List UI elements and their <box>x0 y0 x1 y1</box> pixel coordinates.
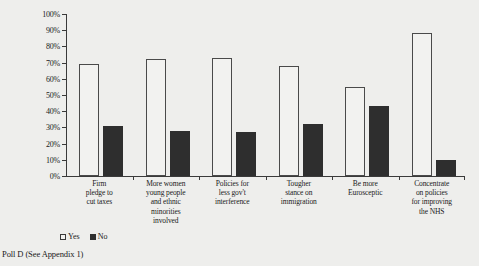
y-axis-tick-mark <box>62 176 66 177</box>
y-axis-tick-mark <box>62 79 66 80</box>
category-label-line: immigration <box>266 197 333 206</box>
y-axis-tick-mark <box>62 63 66 64</box>
category-label-line: minorities <box>133 207 200 216</box>
y-axis-tick-label: 80% <box>46 42 60 51</box>
bar-yes <box>79 64 99 176</box>
chart-legend: YesNo <box>60 232 107 241</box>
category-label-line: Be more <box>332 179 399 188</box>
legend-swatch-yes-icon <box>60 234 66 240</box>
y-axis-tick-label: 50% <box>46 91 60 100</box>
bar-group <box>345 14 389 176</box>
category-label-line: pledge to <box>66 188 133 197</box>
bar-no <box>303 124 323 176</box>
y-axis-tick-label: 30% <box>46 123 60 132</box>
category-label-line: More women <box>133 179 200 188</box>
y-axis-tick-label: 40% <box>46 107 60 116</box>
y-axis-tick-mark <box>62 14 66 15</box>
bar-yes <box>412 33 432 176</box>
category-label-line: Concentrate <box>399 179 466 188</box>
chart-footer-caption: Poll D (See Appendix 1) <box>2 249 83 259</box>
bar-no <box>170 131 190 176</box>
y-axis-tick-label: 70% <box>46 58 60 67</box>
category-label-line: involved <box>133 216 200 225</box>
category-label-line: Firm <box>66 179 133 188</box>
x-axis-category-label: Tougherstance onimmigration <box>266 179 333 207</box>
bar-chart: 100%90%80%70%60%50%40%30%20%10%0% Firmpl… <box>0 0 479 266</box>
category-label-line: and ethnic <box>133 197 200 206</box>
legend-label: No <box>98 232 108 241</box>
x-axis-category-label: Be moreEurosceptic <box>332 179 399 197</box>
legend-swatch-no-icon <box>90 234 96 240</box>
bar-group <box>212 14 256 176</box>
y-axis-tick-label: 100% <box>42 10 60 19</box>
category-label-line: for improving <box>399 197 466 206</box>
category-label-line: on policies <box>399 188 466 197</box>
bar-group <box>146 14 190 176</box>
x-axis-category-label: More womenyoung peopleand ethnicminoriti… <box>133 179 200 225</box>
bar-group <box>412 14 456 176</box>
y-axis-tick-mark <box>62 30 66 31</box>
y-axis-tick-label: 0% <box>50 172 60 181</box>
legend-item-no[interactable]: No <box>90 232 108 241</box>
category-label-line: stance on <box>266 188 333 197</box>
y-axis-tick-mark <box>62 46 66 47</box>
category-label-line: Policies for <box>199 179 266 188</box>
x-axis-category-label: Firmpledge tocut taxes <box>66 179 133 207</box>
bar-yes <box>279 66 299 176</box>
y-axis-tick-label: 20% <box>46 139 60 148</box>
bar-group <box>79 14 123 176</box>
y-axis-tick-mark <box>62 127 66 128</box>
category-label-line: Eurosceptic <box>332 188 399 197</box>
y-axis-tick-label: 10% <box>46 155 60 164</box>
category-label-line: young people <box>133 188 200 197</box>
category-label-line: Tougher <box>266 179 333 188</box>
y-axis-tick-mark <box>62 111 66 112</box>
bar-no <box>436 160 456 176</box>
category-label-line: cut taxes <box>66 197 133 206</box>
bar-no <box>103 126 123 176</box>
y-axis-tick-mark <box>62 95 66 96</box>
bar-no <box>236 132 256 176</box>
x-axis-category-label: Concentrateon policiesfor improvingthe N… <box>399 179 466 216</box>
legend-item-yes[interactable]: Yes <box>60 232 80 241</box>
category-label-line: less gov't <box>199 188 266 197</box>
bar-group <box>279 14 323 176</box>
bar-yes <box>345 87 365 176</box>
y-axis-tick-mark <box>62 144 66 145</box>
x-axis-category-labels: Firmpledge tocut taxesMore womenyoung pe… <box>66 179 465 235</box>
bar-yes <box>212 58 232 176</box>
y-axis-tick-label: 60% <box>46 74 60 83</box>
plot-area: 100%90%80%70%60%50%40%30%20%10%0% <box>66 14 465 176</box>
bar-yes <box>146 59 166 176</box>
y-axis-tick-mark <box>62 160 66 161</box>
category-label-line: interference <box>199 197 266 206</box>
category-label-line: the NHS <box>399 207 466 216</box>
bar-no <box>369 106 389 176</box>
x-axis-category-label: Policies forless gov'tinterference <box>199 179 266 207</box>
y-axis-line <box>66 14 67 177</box>
legend-label: Yes <box>68 232 80 241</box>
y-axis-tick-label: 90% <box>46 26 60 35</box>
